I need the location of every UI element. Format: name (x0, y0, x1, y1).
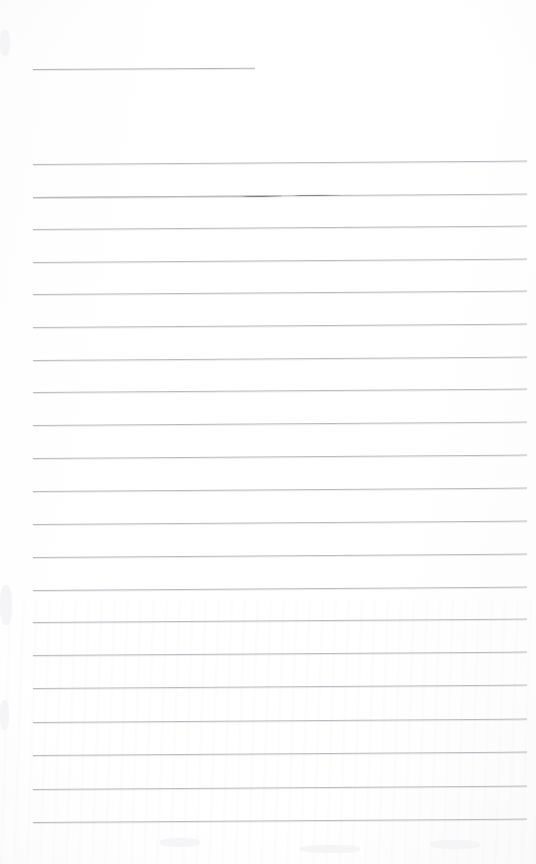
ruled-line (33, 324, 527, 328)
ruled-line (33, 389, 527, 393)
ruled-line (33, 291, 527, 295)
ruled-line (33, 619, 527, 623)
title-underline-rule (33, 68, 255, 70)
ruled-line (33, 685, 527, 689)
ruled-line (33, 819, 527, 823)
ruled-line (33, 488, 527, 492)
ruled-line (33, 422, 527, 426)
scanned-page (0, 0, 536, 864)
ruled-line (33, 259, 527, 263)
ruled-line (33, 719, 527, 723)
ruled-line (33, 455, 527, 459)
ruled-line (33, 521, 527, 525)
edge-smudges-layer (0, 0, 536, 864)
ruled-line (33, 226, 527, 230)
ruled-line (33, 587, 527, 591)
ruled-line (33, 554, 527, 558)
scan-smudge (0, 585, 12, 625)
scan-noise-band (0, 600, 536, 864)
scan-smudge (160, 838, 200, 847)
scan-smudge (430, 840, 480, 849)
scan-smudge (300, 845, 360, 853)
ruled-line (33, 786, 527, 790)
ruled-line (33, 161, 527, 165)
scan-smudge (0, 700, 9, 730)
ruled-line (33, 357, 527, 361)
ruled-line (33, 752, 527, 756)
ruled-line (33, 652, 527, 656)
paper-texture (0, 0, 536, 864)
scan-smudge (0, 30, 10, 56)
